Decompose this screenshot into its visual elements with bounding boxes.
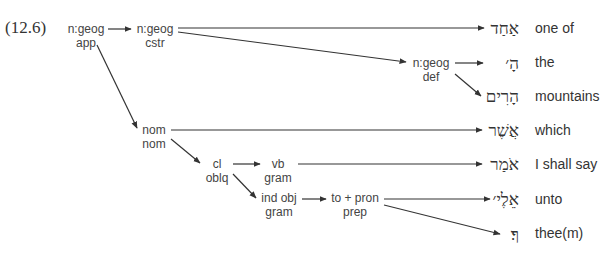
node-cl: cl oblq bbox=[206, 157, 229, 185]
edge-cstr-def bbox=[178, 32, 406, 62]
node-prep-top: to + pron bbox=[331, 191, 379, 205]
node-vb-top: vb bbox=[264, 157, 291, 171]
hebrew-word-6: אֵלֶי׳ bbox=[449, 190, 519, 208]
node-def-top: n:geog bbox=[413, 56, 450, 70]
node-cstr: n:geog cstr bbox=[137, 22, 174, 50]
node-indobj-bottom: gram bbox=[261, 205, 296, 219]
hebrew-word-2: הָ׳ bbox=[449, 54, 519, 72]
hebrew-word-5: אֹמַר bbox=[449, 155, 519, 173]
node-vb-bottom: gram bbox=[264, 171, 291, 185]
gloss-3: mountains bbox=[535, 87, 600, 105]
hebrew-word-4: אֲשֶׁר bbox=[449, 121, 519, 139]
node-cl-bottom: oblq bbox=[206, 171, 229, 185]
node-prep-bottom: prep bbox=[331, 205, 379, 219]
example-number: (12.6) bbox=[5, 18, 46, 38]
node-app: n:geog app bbox=[68, 22, 105, 50]
node-app-bottom: app bbox=[68, 36, 105, 50]
node-prep: to + pron prep bbox=[331, 191, 379, 219]
node-nom-bottom: nom bbox=[142, 137, 165, 151]
node-cstr-bottom: cstr bbox=[137, 36, 174, 50]
node-nom: nom nom bbox=[142, 123, 165, 151]
gloss-5: I shall say bbox=[535, 155, 597, 173]
node-def: n:geog def bbox=[413, 56, 450, 84]
hebrew-word-3: הָרִים bbox=[449, 87, 519, 105]
hebrew-word-1: אַחַד bbox=[449, 19, 519, 37]
node-indobj-top: ind obj bbox=[261, 191, 296, 205]
gloss-6: unto bbox=[535, 190, 562, 208]
node-app-top: n:geog bbox=[68, 22, 105, 36]
node-vb: vb gram bbox=[264, 157, 291, 185]
node-indobj: ind obj gram bbox=[261, 191, 296, 219]
node-def-bottom: def bbox=[413, 70, 450, 84]
edge-nom-cl bbox=[171, 139, 200, 163]
edge-app-nom bbox=[97, 45, 137, 128]
gloss-2: the bbox=[535, 53, 554, 71]
gloss-4: which bbox=[535, 121, 571, 139]
hebrew-word-7: ךָ׃ bbox=[449, 225, 519, 243]
gloss-7: thee(m) bbox=[535, 224, 583, 242]
dependency-diagram: (12.6) n:geog app n:geog cstr n:geog def… bbox=[0, 0, 611, 253]
gloss-1: one of bbox=[535, 19, 574, 37]
node-cstr-top: n:geog bbox=[137, 22, 174, 36]
node-nom-top: nom bbox=[142, 123, 165, 137]
edge-cl-indobj bbox=[233, 174, 256, 198]
node-cl-top: cl bbox=[206, 157, 229, 171]
